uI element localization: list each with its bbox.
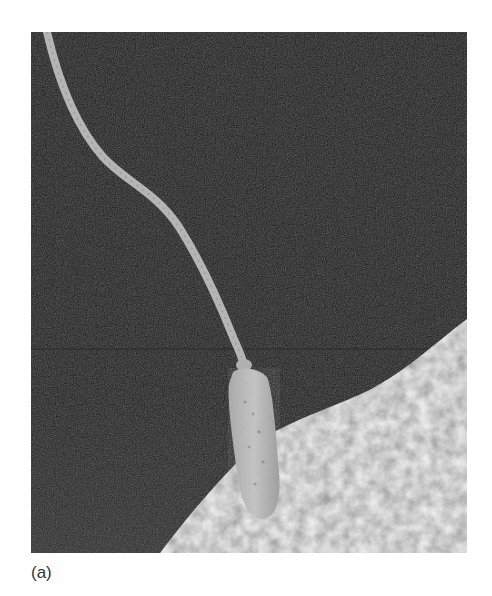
micrograph-image bbox=[31, 32, 467, 553]
micrograph-figure bbox=[31, 32, 467, 553]
figure-caption: (a) bbox=[31, 563, 52, 583]
